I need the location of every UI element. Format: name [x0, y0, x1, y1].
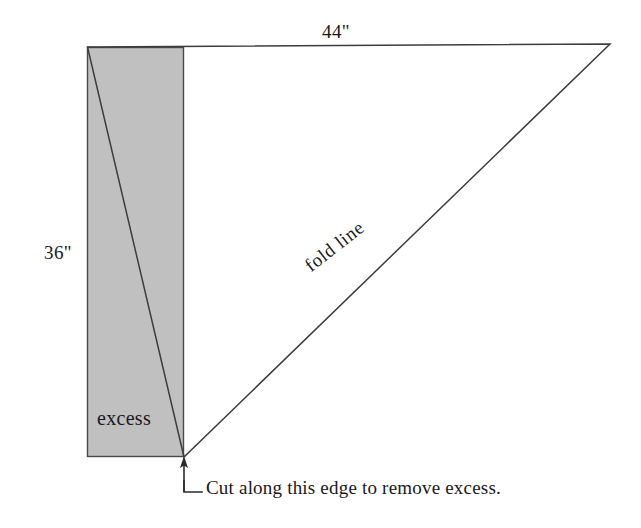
leader-elbow [184, 481, 202, 492]
top-dimension-label: 44" [322, 22, 350, 41]
cut-instruction-caption: Cut along this edge to remove excess. [206, 478, 501, 497]
side-dimension-label: 36" [44, 243, 72, 262]
diagram-canvas: 44" 36" excess fold line Cut along this … [0, 0, 641, 528]
excess-area-label: excess [97, 408, 151, 428]
cut-leader-group [180, 456, 202, 492]
